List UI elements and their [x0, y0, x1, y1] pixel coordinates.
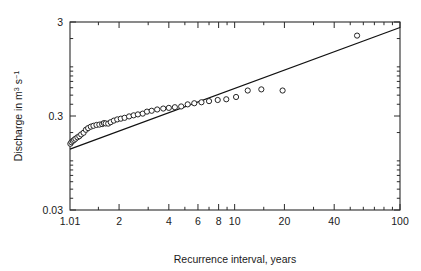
x-tick-label: 4	[166, 215, 172, 227]
y-tick-label: 0.03	[43, 204, 64, 216]
y-tick-label: 0.3	[48, 110, 63, 122]
x-tick-label: 6	[195, 215, 201, 227]
y-tick-label: 3	[57, 16, 63, 28]
data-point-marker	[155, 107, 160, 112]
data-point-marker	[199, 100, 204, 105]
x-tick-label: 20	[279, 215, 291, 227]
y-axis-title: Discharge in m3 s−1	[12, 71, 24, 161]
data-point-marker	[135, 112, 140, 117]
data-point-marker	[206, 99, 211, 104]
data-point-marker	[172, 105, 177, 110]
x-tick-label: 8	[216, 215, 222, 227]
chart-background	[0, 0, 421, 271]
data-point-marker	[245, 88, 250, 93]
data-point-marker	[224, 97, 229, 102]
data-point-marker	[179, 104, 184, 109]
x-tick-label: 10	[229, 215, 241, 227]
chart-canvas: 1.01246810204010030.30.03 Recurrence int…	[0, 0, 421, 271]
data-point-marker	[161, 106, 166, 111]
data-point-marker	[280, 88, 285, 93]
x-tick-label: 1.01	[60, 215, 81, 227]
data-point-marker	[354, 33, 359, 38]
flood-frequency-chart: 1.01246810204010030.30.03 Recurrence int…	[0, 0, 421, 271]
x-axis-title: Recurrence interval, years	[174, 253, 297, 265]
data-point-marker	[259, 87, 264, 92]
x-tick-label: 100	[391, 215, 409, 227]
data-point-marker	[192, 101, 197, 106]
data-point-marker	[185, 102, 190, 107]
data-point-marker	[149, 108, 154, 113]
data-point-marker	[233, 94, 238, 99]
x-tick-label: 2	[116, 215, 122, 227]
data-point-marker	[215, 97, 220, 102]
data-point-marker	[166, 105, 171, 110]
x-tick-label: 40	[328, 215, 340, 227]
